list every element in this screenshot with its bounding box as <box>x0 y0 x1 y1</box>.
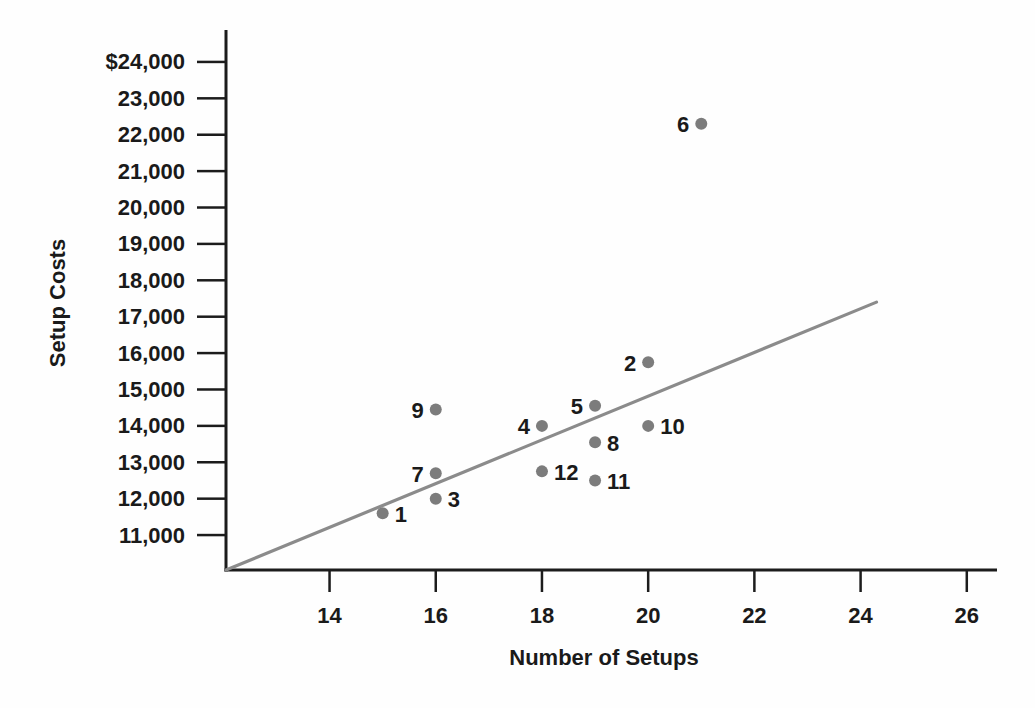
data-point-label: 11 <box>607 469 630 494</box>
x-tick-label: 24 <box>848 603 873 628</box>
y-tick-label: 23,000 <box>118 86 185 111</box>
data-point <box>642 420 654 432</box>
trend-line <box>226 302 877 570</box>
data-point <box>695 118 707 130</box>
y-axis-title: Setup Costs <box>45 239 70 367</box>
chart-svg: 11,00012,00013,00014,00015,00016,00017,0… <box>0 0 1035 708</box>
data-point <box>536 420 548 432</box>
data-point-label: 1 <box>395 502 407 527</box>
data-point <box>377 507 389 519</box>
y-axis-ticks: 11,00012,00013,00014,00015,00016,00017,0… <box>105 49 226 547</box>
x-axis-title: Number of Setups <box>509 645 698 670</box>
y-tick-label: 19,000 <box>118 231 185 256</box>
data-point-label: 3 <box>448 487 460 512</box>
y-tick-label: 17,000 <box>118 304 185 329</box>
data-point-label: 9 <box>412 398 424 423</box>
data-point-label: 10 <box>660 414 684 439</box>
x-tick-label: 26 <box>955 603 979 628</box>
y-tick-label: 12,000 <box>118 486 185 511</box>
data-point <box>642 356 654 368</box>
y-tick-label: 15,000 <box>118 377 185 402</box>
data-point-label: 5 <box>571 394 583 419</box>
data-point <box>589 436 601 448</box>
data-point-label: 6 <box>677 112 689 137</box>
y-tick-label: 18,000 <box>118 268 185 293</box>
x-tick-label: 18 <box>530 603 554 628</box>
data-point <box>430 404 442 416</box>
x-tick-label: 16 <box>424 603 448 628</box>
data-point <box>430 493 442 505</box>
data-points: 123456789101112 <box>377 112 708 526</box>
data-point-label: 12 <box>554 460 578 485</box>
data-point-label: 2 <box>624 351 636 376</box>
x-tick-label: 14 <box>317 603 342 628</box>
y-tick-label: 21,000 <box>118 159 185 184</box>
data-point <box>430 467 442 479</box>
data-point <box>536 465 548 477</box>
x-tick-label: 20 <box>636 603 660 628</box>
data-point <box>589 474 601 486</box>
data-point <box>589 400 601 412</box>
y-tick-label: 13,000 <box>118 450 185 475</box>
y-tick-label: 11,000 <box>119 523 185 548</box>
y-tick-label: $24,000 <box>105 49 185 74</box>
data-point-label: 4 <box>518 414 531 439</box>
y-tick-label: 22,000 <box>118 122 185 147</box>
y-tick-label: 20,000 <box>118 195 185 220</box>
y-tick-label: 14,000 <box>118 413 185 438</box>
y-tick-label: 16,000 <box>118 341 185 366</box>
setup-costs-scattergraph: 11,00012,00013,00014,00015,00016,00017,0… <box>0 0 1035 708</box>
data-point-label: 7 <box>412 462 424 487</box>
x-axis-ticks: 14161820222426 <box>317 570 979 628</box>
x-tick-label: 22 <box>742 603 766 628</box>
data-point-label: 8 <box>607 431 619 456</box>
